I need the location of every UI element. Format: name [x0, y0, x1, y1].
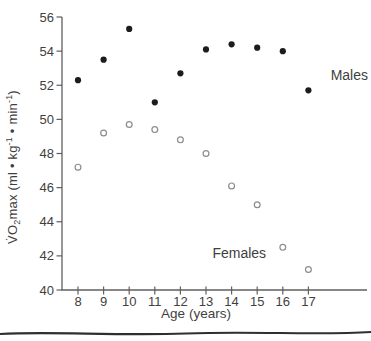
- point-females-age-11: [152, 127, 158, 133]
- point-females-age-15: [254, 202, 260, 208]
- x-tick-label-11: 11: [148, 294, 162, 309]
- x-tick-label-17: 17: [301, 294, 315, 309]
- x-tick-label-10: 10: [122, 294, 136, 309]
- y-axis-title-exponent-1: -1: [4, 137, 14, 145]
- y-axis-title-units-2: • min: [5, 103, 20, 137]
- y-tick-label-54: 54: [40, 44, 54, 59]
- y-axis-title-exponent-2: -1: [4, 95, 14, 103]
- point-females-age-10: [126, 122, 132, 128]
- y-tick-label-56: 56: [40, 10, 54, 25]
- y-axis-title-main: V̇O: [5, 225, 20, 244]
- point-females-age-17: [306, 267, 312, 273]
- point-males-age-16: [280, 48, 286, 54]
- y-tick-label-50: 50: [40, 112, 54, 127]
- point-females-age-9: [101, 130, 107, 136]
- y-tick-label-40: 40: [40, 283, 54, 298]
- x-tick-label-15: 15: [250, 294, 264, 309]
- y-tick-label-42: 42: [40, 248, 54, 263]
- x-tick-label-9: 9: [100, 294, 107, 309]
- point-males-age-17: [305, 87, 311, 93]
- point-males-age-8: [75, 77, 81, 83]
- point-males-age-9: [101, 57, 107, 63]
- point-males-age-15: [254, 45, 260, 51]
- x-axis-title: Age (years): [161, 306, 231, 321]
- y-tick-label-46: 46: [40, 180, 54, 195]
- y-axis-title-units: max (ml • kg: [5, 145, 20, 219]
- point-females-age-13: [203, 151, 209, 157]
- point-males-age-13: [203, 46, 209, 52]
- series-label-females: Females: [212, 245, 266, 261]
- point-males-age-10: [126, 26, 132, 32]
- page-separator-line: [0, 332, 371, 334]
- point-males-age-14: [229, 41, 235, 47]
- x-tick-label-8: 8: [74, 294, 81, 309]
- figure-page: 404244464850525456891011121314151617Age …: [0, 0, 371, 341]
- point-females-age-12: [178, 137, 184, 143]
- x-tick-label-16: 16: [276, 294, 290, 309]
- series-label-males: Males: [331, 67, 368, 83]
- point-females-age-8: [75, 164, 81, 170]
- y-tick-label-48: 48: [40, 146, 54, 161]
- scatter-chart: 404244464850525456891011121314151617Age …: [0, 0, 371, 341]
- point-females-age-16: [280, 244, 286, 250]
- point-males-age-12: [177, 70, 183, 76]
- point-females-age-14: [229, 183, 235, 189]
- y-tick-label-44: 44: [40, 214, 54, 229]
- y-tick-label-52: 52: [40, 78, 54, 93]
- y-axis-title-subscript: 2: [12, 220, 22, 225]
- y-axis-title-close: ): [5, 90, 20, 95]
- point-males-age-11: [152, 99, 158, 105]
- y-axis-title: V̇O2max (ml • kg-1 • min-1): [4, 90, 22, 244]
